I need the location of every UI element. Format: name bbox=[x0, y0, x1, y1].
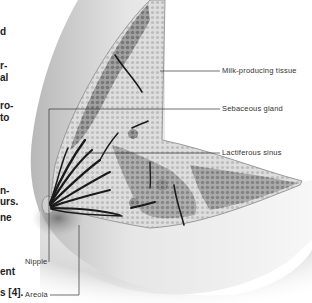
label-nipple: Nipple bbox=[25, 257, 47, 266]
label-sebaceous-gland: Sebaceous gland bbox=[222, 104, 283, 113]
label-areola: Areola bbox=[25, 290, 48, 299]
label-milk-producing-tissue: Milk-producing tissue bbox=[222, 66, 297, 75]
anatomy-figure: d r- al ro- to n- urs. ne ent s [4]. bbox=[0, 0, 312, 303]
label-lactiferous-sinus: Lactiferous sinus bbox=[222, 148, 282, 157]
